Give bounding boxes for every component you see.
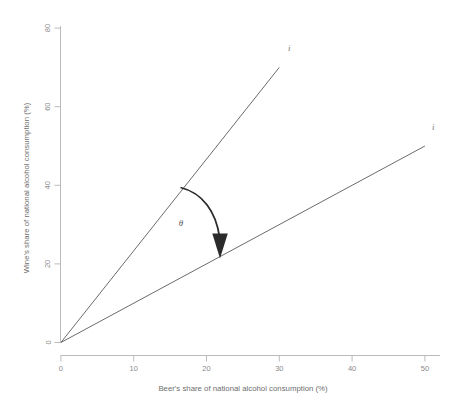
y-tick-label-20: 20 [44,260,53,268]
x-axis-tick-labels: 0 10 20 30 40 50 [59,364,429,373]
theta-label: θ [179,218,184,228]
x-tick-label-40: 40 [348,364,356,373]
series-label-shallow: i [432,122,435,132]
x-tick-label-30: 30 [275,364,283,373]
y-tick-label-0: 0 [44,340,53,344]
y-tick-label-60: 60 [44,103,53,111]
rotation-arrow-head [212,234,228,259]
x-tick-label-50: 50 [421,364,429,373]
x-tick-label-10: 10 [130,364,138,373]
series-line-shallow [61,146,425,343]
rotation-arrow [181,188,228,259]
y-axis-ticks [55,28,61,342]
y-tick-label-40: 40 [44,181,53,189]
chart-figure: 0 20 40 60 80 Wine's share of national a… [0,0,455,406]
x-tick-label-0: 0 [59,364,63,373]
y-tick-label-80: 80 [44,24,53,32]
y-axis-title: Wine's share of national alcohol consump… [22,102,31,273]
rotation-arrow-curve [181,188,220,238]
x-tick-label-20: 20 [202,364,210,373]
series-label-steep: i [288,43,291,53]
x-axis-ticks [61,356,425,362]
x-axis-title: Beer's share of national alcohol consump… [158,384,328,393]
plot-canvas: 0 20 40 60 80 Wine's share of national a… [0,0,455,406]
y-axis-tick-labels: 0 20 40 60 80 [44,24,53,345]
series-line-steep [61,67,279,342]
